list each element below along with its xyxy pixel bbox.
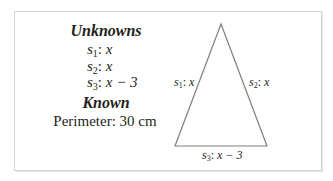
side-label-s2: s2: x bbox=[249, 75, 269, 90]
side-label-s3: s3: x − 3 bbox=[202, 148, 242, 163]
triangle-diagram bbox=[0, 0, 333, 181]
side-label-s1: s1: x bbox=[174, 75, 194, 90]
